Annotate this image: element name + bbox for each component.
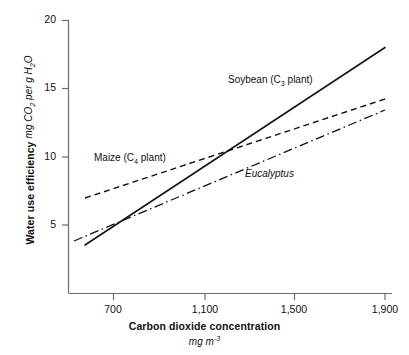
x-tick-label-1100: 1,100 xyxy=(182,303,228,315)
chart-figure: 20 15 10 5 700 1,100 1,500 1,900 Water u… xyxy=(0,0,409,355)
plot-area xyxy=(0,0,409,355)
y-tick-label-20: 20 xyxy=(30,13,56,25)
x-axis-units: mg m-3 xyxy=(0,334,409,347)
series-line-eucalyptus xyxy=(74,110,385,241)
y-axis-units: mg CO2 per g H2O xyxy=(23,55,37,138)
y-axis-ticks xyxy=(62,21,69,226)
x-axis-label-group: Carbon dioxide concentration mg m-3 xyxy=(0,320,409,347)
x-tick-label-1900: 1,900 xyxy=(362,303,408,315)
x-axis-title: Carbon dioxide concentration xyxy=(0,320,409,332)
series-label-soybean: Soybean (C3 plant) xyxy=(228,74,313,88)
y-axis-label-group: Water use efficiency mg CO2 per g H2O xyxy=(13,76,47,224)
y-axis-title: Water use efficiency xyxy=(24,141,36,244)
series-label-eucalyptus: Eucalyptus xyxy=(245,168,294,179)
x-tick-label-700: 700 xyxy=(90,303,136,315)
series-label-maize: Maize (C4 plant) xyxy=(94,152,166,166)
x-tick-label-1500: 1,500 xyxy=(271,303,317,315)
series-line-maize xyxy=(85,99,385,198)
x-axis-ticks xyxy=(114,294,386,301)
